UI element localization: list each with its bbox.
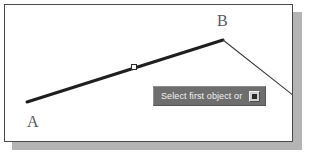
filled-square-glyph <box>252 94 257 99</box>
geometry-layer <box>5 5 293 142</box>
filled-square-icon[interactable] <box>249 91 260 102</box>
pick-point-grip[interactable] <box>132 65 137 70</box>
cad-drawing-screenshot: A B Select first object or <box>0 0 309 158</box>
vertex-label-a: A <box>27 114 39 130</box>
dynamic-input-tooltip: Select first object or <box>153 86 266 106</box>
vertex-label-b: B <box>217 13 228 29</box>
drawing-canvas[interactable]: A B Select first object or <box>4 4 293 142</box>
dynamic-input-prompt-label: Select first object or <box>161 91 242 101</box>
